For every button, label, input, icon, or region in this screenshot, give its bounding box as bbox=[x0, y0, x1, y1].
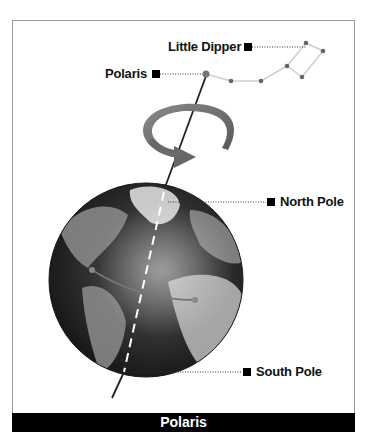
label-polaris: Polaris bbox=[105, 67, 147, 81]
polaris-star bbox=[203, 71, 210, 78]
label-north-pole: North Pole bbox=[280, 195, 344, 209]
rotation-axis-lower bbox=[112, 372, 124, 398]
figure-caption: Polaris bbox=[12, 413, 355, 432]
label-little-dipper: Little Dipper bbox=[168, 40, 241, 54]
label-south-pole: South Pole bbox=[256, 365, 322, 379]
rotation-axis-upper bbox=[164, 76, 206, 190]
earth-globe-icon bbox=[49, 183, 243, 377]
rotation-arrow-icon bbox=[143, 104, 234, 168]
